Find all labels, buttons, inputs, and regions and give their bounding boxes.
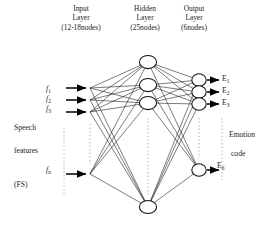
output-node-n bbox=[192, 164, 206, 176]
output-layer-nodes bbox=[192, 74, 206, 176]
hidden-node-3 bbox=[139, 96, 156, 109]
hidden-node-2 bbox=[139, 78, 156, 91]
output-node-2 bbox=[192, 86, 206, 98]
hidden-layer-nodes bbox=[139, 55, 156, 213]
neural-network-diagram: Input Layer (12-18nodes) Hidden Layer (2… bbox=[0, 0, 273, 241]
output-arrows bbox=[207, 80, 219, 170]
output-node-3 bbox=[192, 98, 206, 110]
hidden-node-n bbox=[139, 200, 156, 213]
hidden-node-1 bbox=[139, 55, 156, 68]
network-graph bbox=[0, 0, 273, 241]
input-arrows bbox=[66, 88, 86, 174]
output-node-1 bbox=[192, 74, 206, 86]
